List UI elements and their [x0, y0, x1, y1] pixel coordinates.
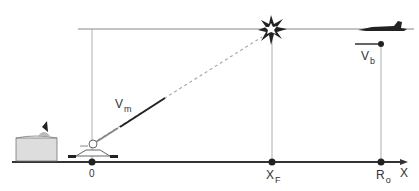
xf-label-sub: F — [275, 175, 281, 185]
aircraft-icon — [358, 21, 407, 31]
origin-label: 0 — [89, 169, 95, 179]
vb-label: Vb — [361, 50, 374, 62]
xf-point — [269, 159, 276, 166]
origin-point — [89, 159, 96, 166]
ro-label-sub: o — [386, 175, 391, 185]
radar-building-icon — [16, 121, 57, 161]
vm-label-main: V — [115, 97, 123, 111]
missile-launcher-icon — [68, 128, 118, 158]
ro-label-main: R — [376, 168, 385, 182]
x-axis-label: X — [400, 167, 408, 179]
ro-label: Ro — [376, 169, 390, 181]
vb-point — [378, 41, 384, 47]
xf-label: XF — [266, 169, 280, 181]
vm-label-sub: m — [124, 104, 132, 114]
ro-point — [378, 159, 385, 166]
vb-label-sub: b — [370, 56, 375, 66]
intercept-diagram — [0, 0, 419, 191]
vb-label-main: V — [361, 49, 369, 63]
explosion-icon — [258, 15, 287, 45]
xf-label-main: X — [266, 168, 274, 182]
x-axis-arrowhead — [400, 159, 408, 165]
vm-label: Vm — [115, 98, 131, 110]
